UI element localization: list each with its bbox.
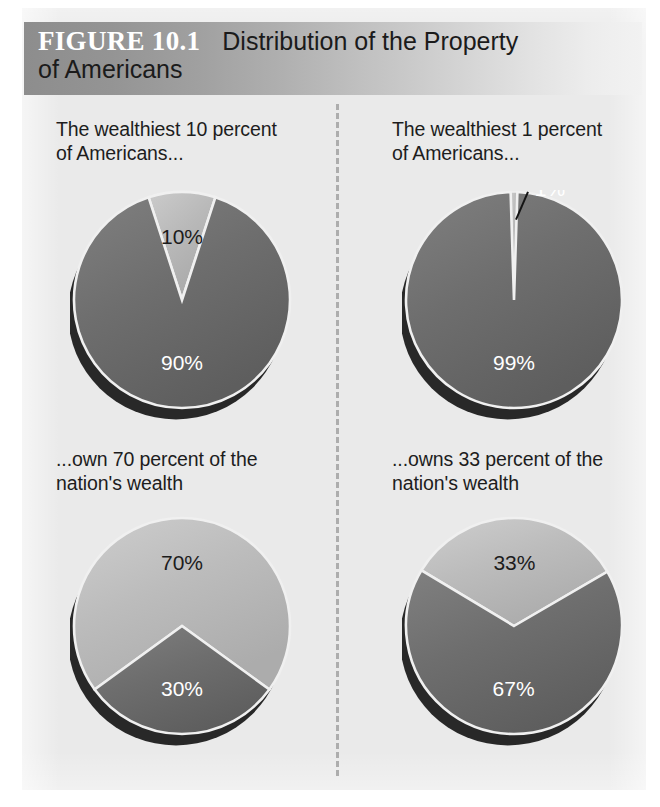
pie-slice-label: 30% [161, 677, 203, 700]
pie-chart-wealth-70-percent: 70%30% [70, 516, 294, 752]
column-divider [336, 104, 339, 776]
pie-slice-label: 70% [161, 551, 203, 574]
figure-header-line-1: FIGURE 10.1Distribution of the Property [38, 27, 642, 55]
caption-bottom-right: ...owns 33 percent of the nation's wealt… [392, 448, 648, 496]
pie-chart-population-1-percent: 1%99% [402, 190, 626, 426]
pie-chart-population-10-percent: 10%90% [70, 190, 294, 426]
pie-slice-label: 33% [493, 551, 535, 574]
caption-top-right: The wealthiest 1 percent of Americans... [392, 118, 648, 166]
pie-slice-label: 10% [161, 225, 203, 248]
figure-header-bar: FIGURE 10.1Distribution of the Property … [24, 22, 642, 95]
pie-slice-label: 99% [493, 351, 535, 374]
pie-slice-label: 90% [161, 351, 203, 374]
pie-slice-label: 1% [535, 190, 565, 200]
pie-chart-wealth-33-percent: 33%67% [402, 516, 626, 752]
pie-slice-label: 67% [493, 677, 535, 700]
caption-bottom-left: ...own 70 percent of the nation's wealth [56, 448, 324, 496]
figure-title-line-1: Distribution of the Property [222, 27, 518, 55]
caption-top-left: The wealthiest 10 percent of Americans..… [56, 118, 324, 166]
figure-number-label: FIGURE 10.1 [38, 26, 200, 56]
figure-title-line-2: of Americans [38, 56, 642, 82]
